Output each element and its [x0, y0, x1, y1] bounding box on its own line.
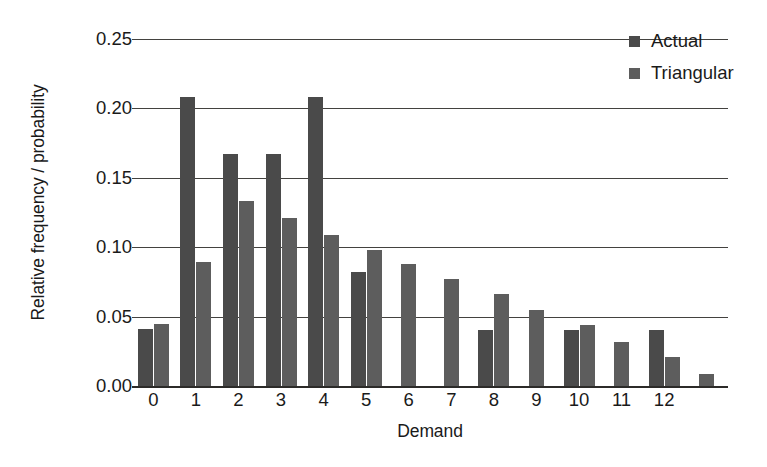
chart-legend: Actual Triangular — [629, 25, 734, 89]
gridline — [132, 317, 728, 318]
bar-actual — [266, 154, 281, 386]
gridline — [132, 247, 728, 248]
x-tick-label: 2 — [233, 391, 243, 410]
y-tick-label: 0.05 — [40, 307, 132, 326]
bar-actual — [138, 329, 153, 386]
bar-triangular — [494, 294, 509, 386]
y-tick-label: 0.25 — [40, 30, 132, 49]
bar-triangular — [529, 310, 544, 386]
x-tick-label: 3 — [276, 391, 286, 410]
legend-entry-actual: Actual — [629, 25, 734, 57]
x-tick-label: 8 — [489, 391, 499, 410]
bar-triangular — [196, 262, 211, 386]
bar-triangular — [367, 250, 382, 386]
bar-triangular — [282, 218, 297, 386]
x-axis-title: Demand — [132, 421, 728, 442]
bar-actual — [308, 97, 323, 386]
gridline — [132, 178, 728, 179]
x-tick-label: 9 — [531, 391, 541, 410]
x-tick-label: 7 — [446, 391, 456, 410]
bar-triangular — [324, 235, 339, 386]
legend-entry-triangular: Triangular — [629, 57, 734, 89]
bar-actual — [351, 272, 366, 386]
bar-actual — [180, 97, 195, 386]
bar-triangular — [580, 325, 595, 386]
x-axis-line — [132, 386, 728, 388]
x-tick-label: 10 — [569, 391, 590, 410]
bar-triangular — [444, 279, 459, 386]
x-tick-label: 0 — [148, 391, 158, 410]
plot-area: 0.000.050.100.150.200.250123456789101112 — [132, 39, 728, 386]
gridline — [132, 108, 728, 109]
bar-triangular — [699, 374, 714, 386]
bar-actual — [478, 330, 493, 386]
x-tick-label: 5 — [361, 391, 371, 410]
bar-actual — [649, 330, 664, 386]
legend-label: Triangular — [651, 64, 734, 83]
y-tick-label: 0.20 — [40, 99, 132, 118]
x-tick-label: 1 — [191, 391, 201, 410]
bar-triangular — [239, 201, 254, 386]
legend-swatch-icon — [629, 36, 640, 47]
y-tick-label: 0.15 — [40, 169, 132, 188]
legend-swatch-icon — [629, 68, 640, 79]
legend-label: Actual — [651, 32, 702, 51]
bar-actual — [564, 330, 579, 386]
bar-triangular — [401, 264, 416, 386]
x-tick-label: 4 — [318, 391, 328, 410]
y-tick-label: 0.10 — [40, 238, 132, 257]
bar-actual — [223, 154, 238, 386]
y-tick-label: 0.00 — [40, 377, 132, 396]
bar-chart: Relative frequency / probability 0.000.0… — [0, 0, 767, 467]
bar-triangular — [665, 357, 680, 386]
bar-triangular — [614, 342, 629, 386]
x-tick-label: 12 — [654, 391, 675, 410]
bar-triangular — [154, 324, 169, 386]
x-tick-label: 11 — [612, 391, 631, 410]
x-tick-label: 6 — [404, 391, 414, 410]
